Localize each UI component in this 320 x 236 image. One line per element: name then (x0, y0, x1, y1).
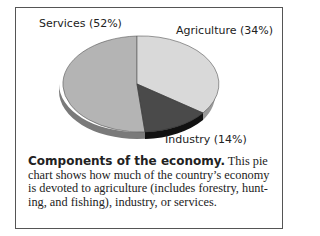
figure-caption: Components of the economy. This pie char… (28, 155, 276, 209)
label-agriculture: Agriculture (34%) (176, 24, 273, 37)
caption-title: Components of the economy. (28, 154, 225, 168)
label-services: Services (52%) (39, 17, 122, 30)
label-industry: Industry (14%) (165, 133, 247, 146)
